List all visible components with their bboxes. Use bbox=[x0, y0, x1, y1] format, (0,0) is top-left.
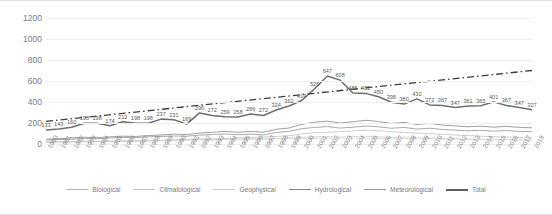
legend-swatch-icon bbox=[364, 189, 386, 190]
data-label: 212 bbox=[118, 114, 127, 120]
data-label: 401 bbox=[489, 94, 498, 100]
data-label: 367 bbox=[438, 97, 447, 103]
chart-container: 020040060080010001200 133143160198198174… bbox=[0, 0, 552, 215]
legend-label: Geophysical bbox=[239, 186, 275, 193]
y-tick-label: 1000 bbox=[23, 34, 42, 44]
legend-item-total[interactable]: Total bbox=[446, 186, 486, 193]
data-label: 372 bbox=[425, 97, 434, 103]
data-label: 430 bbox=[412, 91, 421, 97]
data-label: 526 bbox=[310, 81, 319, 87]
legend-label: Biological bbox=[92, 186, 120, 193]
legend-item-climatological[interactable]: Climatological bbox=[133, 186, 200, 193]
data-label: 362 bbox=[284, 98, 293, 104]
gridline bbox=[46, 39, 532, 40]
data-label: 347 bbox=[451, 100, 460, 106]
gridline bbox=[46, 18, 532, 19]
data-label: 231 bbox=[169, 112, 178, 118]
data-label: 361 bbox=[463, 98, 472, 104]
x-axis-labels: 1980198119821983198419851986198719881989… bbox=[46, 146, 532, 180]
data-label: 189 bbox=[182, 116, 191, 122]
data-label: 198 bbox=[144, 115, 153, 121]
data-label: 198 bbox=[92, 115, 101, 121]
legend-item-hydrological[interactable]: Hydrological bbox=[289, 186, 351, 193]
data-label: 259 bbox=[220, 109, 229, 115]
y-tick-label: 800 bbox=[28, 55, 42, 65]
legend-swatch-icon bbox=[289, 189, 311, 190]
chart-legend: BiologicalClimatologicalGeophysicalHydro… bbox=[0, 186, 552, 193]
gridline bbox=[46, 81, 532, 82]
legend-swatch-icon bbox=[446, 189, 468, 191]
y-tick-label: 0 bbox=[37, 139, 42, 149]
data-label: 365 bbox=[476, 98, 485, 104]
data-label: 327 bbox=[527, 102, 536, 108]
data-label: 174 bbox=[105, 118, 114, 124]
data-label: 160 bbox=[67, 119, 76, 125]
data-label: 272 bbox=[208, 107, 217, 113]
data-label: 258 bbox=[233, 109, 242, 115]
data-label: 347 bbox=[515, 100, 524, 106]
legend-swatch-icon bbox=[66, 189, 88, 190]
y-tick-label: 600 bbox=[28, 76, 42, 86]
data-label: 198 bbox=[80, 115, 89, 121]
data-label: 647 bbox=[323, 68, 332, 74]
legend-label: Hydrological bbox=[315, 186, 351, 193]
legend-swatch-icon bbox=[213, 189, 235, 190]
data-label: 380 bbox=[399, 96, 408, 102]
data-label: 485 bbox=[348, 85, 357, 91]
plot-area: 1331431601981981742121981982372311892962… bbox=[46, 18, 532, 144]
data-label: 237 bbox=[156, 111, 165, 117]
data-label: 367 bbox=[502, 97, 511, 103]
legend-swatch-icon bbox=[133, 189, 155, 190]
y-tick-label: 400 bbox=[28, 97, 42, 107]
data-label: 296 bbox=[195, 105, 204, 111]
legend-label: Total bbox=[472, 186, 486, 193]
data-label: 608 bbox=[335, 72, 344, 78]
y-tick-label: 1200 bbox=[23, 13, 42, 23]
data-label: 272 bbox=[259, 107, 268, 113]
data-label: 286 bbox=[246, 106, 255, 112]
legend-label: Meteorological bbox=[390, 186, 433, 193]
top-border bbox=[0, 0, 552, 1]
legend-item-meteorological[interactable]: Meteorological bbox=[364, 186, 433, 193]
data-label: 414 bbox=[297, 93, 306, 99]
legend-label: Climatological bbox=[159, 186, 200, 193]
bottom-border bbox=[0, 214, 552, 215]
legend-item-biological[interactable]: Biological bbox=[66, 186, 120, 193]
y-axis-labels: 020040060080010001200 bbox=[0, 18, 42, 144]
gridline bbox=[46, 123, 532, 124]
x-tick-label: 2018 bbox=[532, 134, 545, 150]
gridline bbox=[46, 60, 532, 61]
legend-item-geophysical[interactable]: Geophysical bbox=[213, 186, 275, 193]
data-label: 450 bbox=[374, 89, 383, 95]
data-label: 324 bbox=[272, 102, 281, 108]
data-label: 482 bbox=[361, 85, 370, 91]
y-tick-label: 200 bbox=[28, 118, 42, 128]
data-label: 133 bbox=[41, 122, 50, 128]
data-label: 143 bbox=[54, 121, 63, 127]
data-label: 398 bbox=[387, 94, 396, 100]
data-label: 198 bbox=[131, 115, 140, 121]
